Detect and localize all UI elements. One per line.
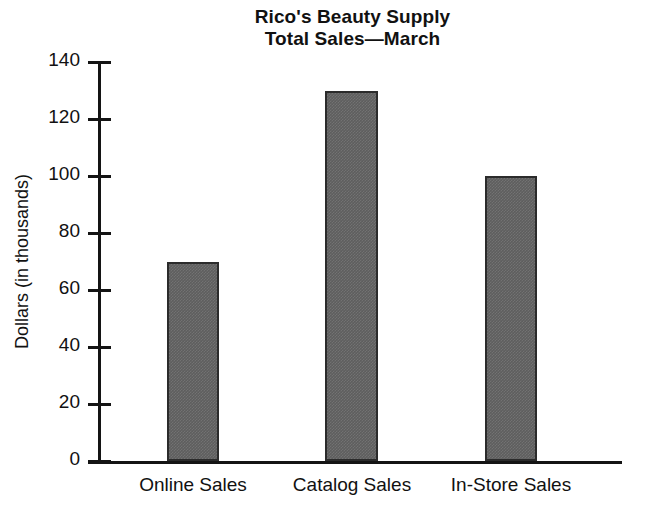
y-axis-tick-120: 120 [88, 118, 111, 121]
bar-chart-figure: Rico's Beauty Supply Total Sales—March D… [0, 0, 645, 505]
y-axis-tick-40: 40 [88, 346, 111, 349]
y-axis-tick-label-100: 100 [48, 164, 80, 183]
y-axis-tick-label-120: 120 [48, 107, 80, 126]
bar-in-store-sales [485, 176, 537, 461]
y-axis-tick-20: 20 [88, 403, 111, 406]
y-axis-tick-label-0: 0 [69, 449, 80, 468]
y-axis-tick-label-140: 140 [48, 50, 80, 69]
x-axis-line [88, 461, 622, 464]
bar-catalog-sales [325, 91, 378, 462]
y-axis-tick-label-60: 60 [59, 278, 80, 297]
y-axis-tick-label-40: 40 [59, 335, 80, 354]
y-axis-tick-100: 100 [88, 175, 111, 178]
x-axis-label-in-store-sales: In-Store Sales [431, 474, 591, 495]
y-axis-tick-label-20: 20 [59, 392, 80, 411]
y-axis-tick-140: 140 [88, 61, 111, 64]
y-axis-tick-0: 0 [88, 460, 111, 463]
x-axis-label-catalog-sales: Catalog Sales [272, 474, 432, 495]
y-axis-tick-60: 60 [88, 289, 111, 292]
x-axis-label-online-sales: Online Sales [113, 474, 273, 495]
chart-title-line-2: Total Sales—March [60, 28, 645, 50]
y-axis-tick-label-80: 80 [59, 221, 80, 240]
y-axis-tick-80: 80 [88, 232, 111, 235]
chart-title: Rico's Beauty Supply Total Sales—March [0, 6, 645, 50]
plot-area: 140 120 100 80 60 40 20 0 Online Sales C… [98, 62, 622, 461]
chart-title-line-1: Rico's Beauty Supply [60, 6, 645, 28]
bar-online-sales [167, 262, 219, 462]
y-axis-title: Dollars (in thousands) [8, 62, 36, 461]
